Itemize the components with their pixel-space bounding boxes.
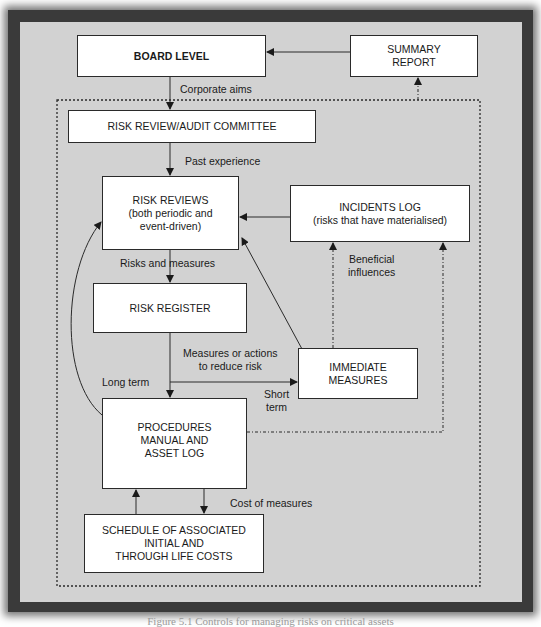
incidents-log-box: INCIDENTS LOG (risks that have materiali… [290, 185, 470, 242]
board-level-label: BOARD LEVEL [134, 50, 209, 63]
procedures-manual-box: PROCEDURES MANUAL AND ASSET LOG [102, 398, 247, 489]
immediate-measures-box: IMMEDIATE MEASURES [298, 348, 418, 399]
immediate-measures-label: IMMEDIATE MEASURES [329, 361, 388, 387]
label-beneficial-influences: Beneficial influences [348, 253, 395, 278]
figure-caption: Figure 5.1 Controls for managing risks o… [0, 615, 541, 627]
incidents-log-label: INCIDENTS LOG (risks that have materiali… [313, 201, 447, 227]
label-long-term: Long term [102, 376, 149, 389]
label-short-term: Short term [264, 388, 289, 413]
risk-register-box: RISK REGISTER [93, 283, 247, 333]
summary-report-label: SUMMARY REPORT [387, 43, 440, 69]
label-past-experience: Past experience [185, 155, 260, 168]
schedule-costs-box: SCHEDULE OF ASSOCIATED INITIAL AND THROU… [84, 514, 264, 573]
label-cost-of-measures: Cost of measures [230, 497, 312, 510]
risk-reviews-box: RISK REVIEWS (both periodic and event-dr… [102, 176, 239, 250]
board-level-box: BOARD LEVEL [77, 35, 266, 77]
summary-report-box: SUMMARY REPORT [350, 35, 478, 77]
risk-register-label: RISK REGISTER [129, 302, 210, 315]
schedule-costs-label: SCHEDULE OF ASSOCIATED INITIAL AND THROU… [102, 524, 246, 563]
label-risks-and-measures: Risks and measures [120, 257, 215, 270]
risk-review-committee-box: RISK REVIEW/AUDIT COMMITTEE [68, 110, 316, 143]
risk-review-committee-label: RISK REVIEW/AUDIT COMMITTEE [108, 120, 277, 133]
label-corporate-aims: Corporate aims [180, 83, 252, 96]
procedures-manual-label: PROCEDURES MANUAL AND ASSET LOG [137, 421, 211, 460]
risk-reviews-label: RISK REVIEWS (both periodic and event-dr… [128, 194, 212, 233]
arrow-immediate-to-reviews [242, 238, 302, 349]
label-measures-or-actions: Measures or actions to reduce risk [183, 347, 278, 372]
